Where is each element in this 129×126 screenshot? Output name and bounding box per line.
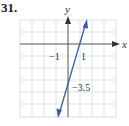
line-arrow-up-icon	[83, 19, 89, 29]
x-axis	[20, 41, 120, 47]
y-axis	[65, 16, 71, 117]
x-axis-label: x	[121, 38, 127, 50]
y-intercept-label: −3.5	[72, 82, 90, 93]
plotted-line	[57, 19, 89, 118]
tick-label-one: 1	[81, 51, 86, 62]
graph: x y −1 1 −3.5	[0, 0, 129, 126]
line-arrow-down-icon	[57, 109, 63, 119]
tick-label-neg-one: −1	[49, 51, 60, 62]
y-axis-label: y	[64, 3, 70, 15]
